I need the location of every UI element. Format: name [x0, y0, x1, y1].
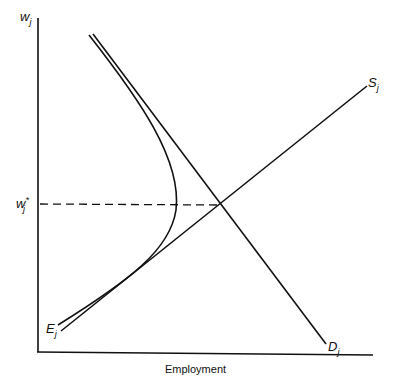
supply-curve-label: Sj — [368, 76, 379, 93]
demand-curve-label: Dj — [328, 340, 339, 357]
supply-curve — [61, 86, 367, 331]
equilibrium-wage-dashed-line — [40, 204, 221, 205]
equilibrium-wage-label: w*j — [16, 196, 25, 214]
effort-curve — [58, 35, 177, 325]
demand-curve — [93, 34, 326, 344]
effort-curve-label: Ej — [46, 322, 57, 339]
x-axis-label: Employment — [0, 363, 395, 375]
labor-market-diagram — [0, 0, 395, 377]
y-axis-label: wj — [20, 10, 31, 27]
x-axis — [37, 352, 373, 355]
